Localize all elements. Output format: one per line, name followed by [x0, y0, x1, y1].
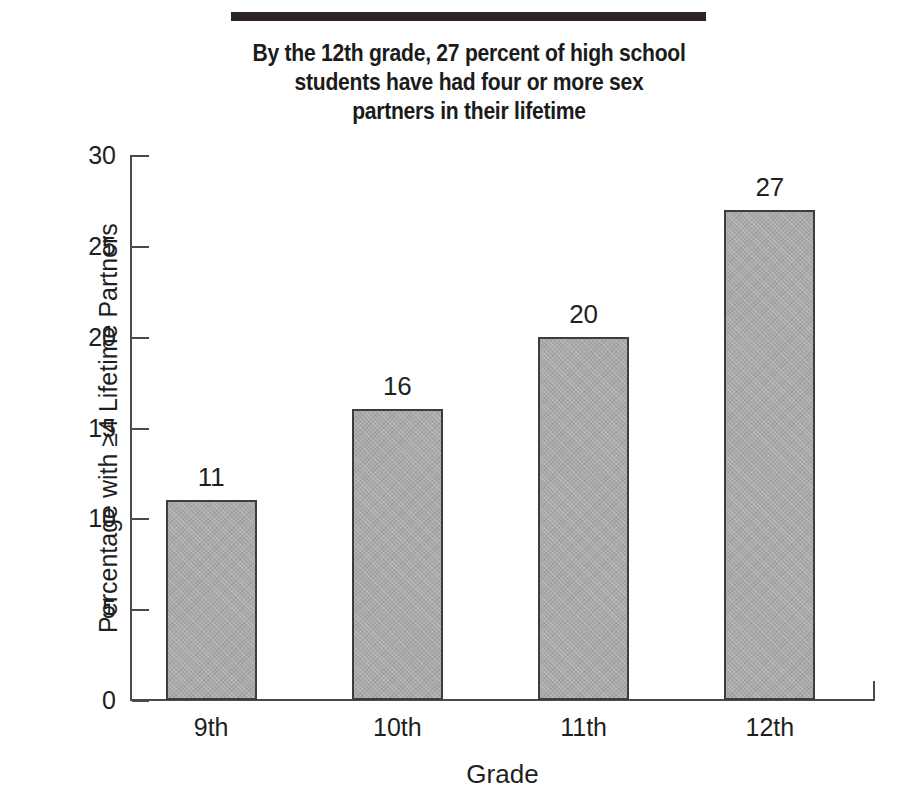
chart-title-line-3: partners in their lifetime [223, 96, 716, 125]
y-tick-mark [132, 700, 149, 702]
x-tick-label: 9th [194, 715, 229, 740]
chart-figure: By the 12th grade, 27 percent of high sc… [0, 0, 918, 807]
y-tick-mark [132, 246, 149, 248]
y-tick-mark [132, 337, 149, 339]
y-tick-mark [132, 155, 149, 157]
bar-value-label: 16 [383, 373, 412, 399]
x-tick-label: 11th [560, 715, 607, 740]
y-tick-mark [132, 428, 149, 430]
y-tick-label: 0 [102, 688, 116, 713]
y-tick-mark [132, 518, 149, 520]
y-tick-label: 30 [88, 143, 116, 168]
x-tick-label: 12th [746, 715, 795, 740]
bar[interactable] [352, 409, 443, 700]
bar-value-label: 20 [569, 301, 598, 327]
x-axis-end-cap [873, 681, 875, 700]
bar[interactable] [166, 500, 257, 700]
bar-value-label: 11 [198, 464, 225, 490]
chart-title: By the 12th grade, 27 percent of high sc… [223, 38, 716, 125]
bar[interactable] [538, 337, 629, 700]
plot-area: 051015202530 119th1610th2011th2712th Per… [130, 155, 875, 700]
chart-title-line-1: By the 12th grade, 27 percent of high sc… [223, 38, 716, 67]
x-axis-title: Grade [130, 761, 875, 787]
y-tick-mark [132, 609, 149, 611]
bar[interactable] [724, 210, 815, 701]
x-tick-label: 10th [373, 715, 422, 740]
decorative-top-rule [231, 12, 706, 21]
bar-value-label: 27 [755, 174, 784, 200]
y-axis-title: Percentage with ≥4 Lifetime Partners [96, 223, 121, 633]
chart-title-line-2: students have had four or more sex [223, 67, 716, 96]
